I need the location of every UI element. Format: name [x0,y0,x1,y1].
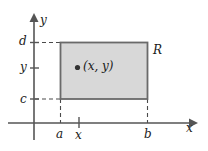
tick-label-b: b [144,128,152,140]
y-axis-arrowhead [30,13,39,22]
tick-label-y: y [20,61,27,73]
region-label-R: R [153,44,162,56]
sample-point-marker [75,65,80,70]
figure-canvas [0,0,208,151]
x-axis-label: x [186,122,193,134]
tick-label-d: d [19,35,27,47]
tick-label-c: c [20,93,27,105]
tick-label-a: a [56,128,63,140]
math-figure: y x d y c a x b R (x, y) [0,0,208,151]
y-axis-label: y [40,14,47,26]
sample-point-label: (x, y) [83,60,114,72]
tick-label-x: x [75,129,82,141]
